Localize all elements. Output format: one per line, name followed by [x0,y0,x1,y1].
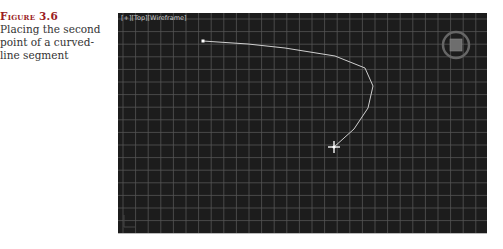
vertex-handle[interactable] [202,40,205,43]
figure-description: Placing the second point of a curved-lin… [0,23,110,62]
view-cube-icon[interactable] [450,39,462,51]
viewport-canvas[interactable] [118,13,487,233]
figure-label: Figure 3.6 [0,10,110,23]
top-viewport[interactable]: [+][Top][Wireframe] [118,13,487,234]
viewport-label[interactable]: [+][Top][Wireframe] [121,14,187,22]
grid [118,13,487,233]
cursor-center [332,145,335,148]
figure-caption: Figure 3.6 Placing the second point of a… [0,10,110,62]
